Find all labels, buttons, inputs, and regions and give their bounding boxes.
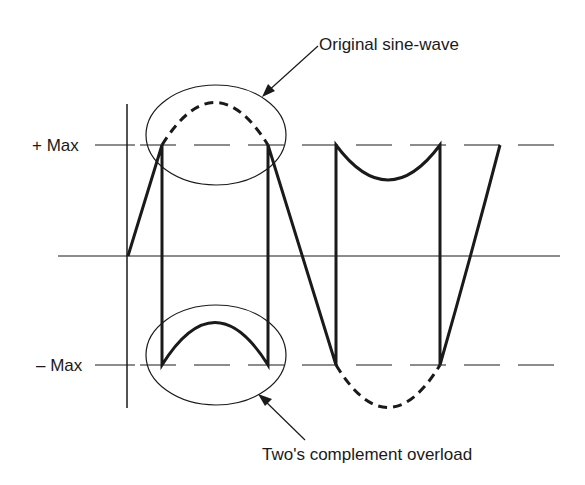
original-sine-dashed-top [162, 103, 268, 146]
overload-ellipse-top [146, 85, 286, 185]
overload-label: Two's complement overload [262, 445, 472, 464]
plus-max-label: + Max [32, 136, 79, 155]
original-arrow-line [266, 46, 318, 93]
original-sine-label: Original sine-wave [319, 35, 459, 54]
minus-max-label: – Max [36, 356, 83, 375]
overload-arrow-head [258, 394, 272, 406]
original-sine-dashed-bottom [336, 365, 440, 408]
waveform-diagram: + Max – Max Original sine-wave Two's com… [0, 0, 585, 485]
overload-arrow-line [262, 398, 305, 440]
overload-waveform [128, 145, 500, 365]
